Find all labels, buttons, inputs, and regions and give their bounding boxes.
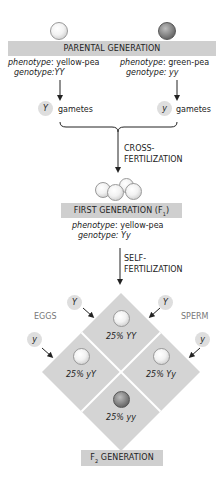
yellow-pea-icon: [113, 310, 130, 327]
cross-fertilization-label: CROSS- FERTILIZATION: [124, 143, 183, 165]
yellow-pea-icon: [73, 348, 90, 365]
f1-phenotype: phenotype: yellow-pea: [72, 221, 163, 230]
gamete-Y-left: Y: [38, 101, 53, 116]
f1-pea-cluster: [95, 178, 145, 200]
self-fertilization-label: SELF- FERTILIZATION: [124, 253, 183, 275]
punnett-cell-yy: 25% yy: [96, 391, 146, 422]
punnett-cell-Yy: 25% Yy: [136, 348, 186, 379]
eggs-label: EGGS: [34, 312, 57, 321]
f2-generation-bar: F2 GENERATION: [81, 450, 163, 466]
sperm-allele-y: y: [195, 332, 210, 347]
gamete-y-right: y: [157, 101, 172, 116]
punnett-cell-YY: 25% YY: [96, 310, 146, 341]
green-pea-icon: [113, 391, 130, 408]
yellow-pea-icon: [125, 183, 142, 200]
punnett-cell-yY: 25% yY: [56, 348, 106, 379]
first-generation-bar: FIRST GENERATION (F1): [61, 203, 182, 218]
yellow-pea-icon: [107, 184, 124, 201]
left-gametes-label: gametes: [58, 105, 93, 114]
sperm-allele-Y: Y: [158, 295, 173, 310]
f1-genotype: genotype: Yy: [78, 231, 131, 240]
sperm-label: SPERM: [181, 312, 208, 321]
egg-allele-y: y: [27, 332, 42, 347]
egg-allele-Y: Y: [67, 295, 82, 310]
right-gametes-label: gametes: [176, 105, 211, 114]
yellow-pea-icon: [153, 348, 170, 365]
